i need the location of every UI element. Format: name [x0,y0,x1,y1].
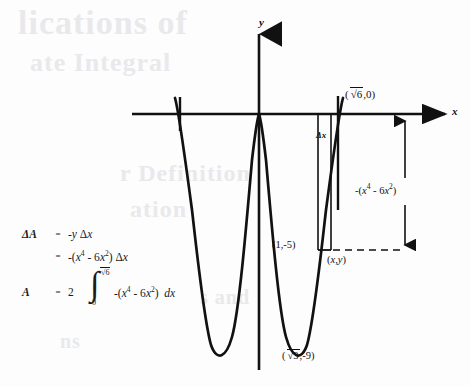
work-line-2-equals: = [48,250,68,261]
work-line-3-equals: = [48,286,68,297]
label-minimum-point: (√3,-9) [282,350,314,361]
graph-figure [0,0,471,387]
work-line-1-equals: = [48,228,68,239]
work-line-2-rhs: -(x4 - 6x2) Δx [68,250,128,263]
integral-upper-limit: √6 [99,269,110,277]
label-x-intercept: (√6,0) [345,88,375,100]
label-point-1-neg5: (1,-5) [272,239,296,250]
work-equations: ΔA = -y Δx = -(x4 - 6x2) Δx A = 2 ∫ √6 0… [22,228,175,312]
label-strip-height: -(x4 - 6x2) [355,182,396,196]
label-delta-x: Δx [316,130,326,140]
y-axis-label: y [259,16,264,28]
integral-lower-limit: 0 [92,299,96,307]
work-line-1: ΔA = -y Δx [22,228,175,250]
work-line-3-integrand: -(x4 - 6x2) dx [114,286,175,299]
x-axis-label: x [452,105,458,117]
work-line-1-rhs: -y Δx [68,228,92,240]
integral-glyph: ∫ [90,267,99,301]
label-point-xy: (x,y) [327,254,346,265]
work-line-3-coefficient: 2 [68,286,84,298]
work-line-1-lhs: ΔA [22,228,48,240]
work-line-3: A = 2 ∫ √6 0 -(x4 - 6x2) dx [22,272,175,312]
integral-sign-group: ∫ √6 0 [84,272,114,312]
figure-page: lications of ate Integral r Definition a… [0,0,471,387]
work-line-3-lhs: A [22,286,48,298]
curve-left-branch [175,98,259,356]
